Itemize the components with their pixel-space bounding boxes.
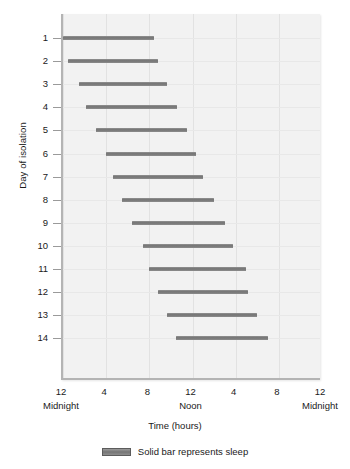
x-tick-label: 12	[171, 386, 211, 397]
x-tick-sublabel: Noon	[151, 400, 231, 411]
x-tick-label: 4	[214, 386, 254, 397]
sleep-bar	[176, 336, 268, 340]
y-tick-label: 12	[20, 287, 48, 297]
x-tick-label: 4	[84, 386, 124, 397]
sleep-bar	[143, 244, 234, 248]
y-tick-label: 1	[20, 33, 48, 43]
plot-area	[61, 14, 320, 380]
x-axis-title: Time (hours)	[0, 420, 350, 431]
y-tick-label: 11	[20, 264, 48, 274]
sleep-bar	[96, 128, 187, 132]
sleep-bar	[79, 82, 166, 86]
sleep-bar	[106, 152, 196, 156]
y-tick-label: 8	[20, 195, 48, 205]
y-tick-mark	[53, 61, 61, 62]
y-tick-mark	[53, 84, 61, 85]
y-tick-mark	[53, 292, 61, 293]
x-gridline	[106, 14, 107, 378]
y-tick-label: 9	[20, 218, 48, 228]
y-tick-mark	[53, 269, 61, 270]
sleep-bar	[63, 36, 154, 40]
sleep-bar	[86, 105, 178, 109]
x-tick-label: 12	[300, 386, 340, 397]
x-tick-label: 12	[41, 386, 81, 397]
y-tick-mark	[53, 177, 61, 178]
x-gridline	[236, 14, 237, 378]
y-tick-label: 10	[20, 241, 48, 251]
legend-label: Solid bar represents sleep	[138, 446, 248, 457]
sleep-bar	[167, 313, 258, 317]
y-tick-mark	[53, 315, 61, 316]
x-gridline	[193, 14, 194, 378]
x-gridline	[149, 14, 150, 378]
y-tick-label: 14	[20, 333, 48, 343]
sleep-bar	[158, 290, 248, 294]
chart-legend: Solid bar represents sleep	[0, 446, 350, 457]
x-tick-sublabel: Midnight	[280, 400, 350, 411]
y-tick-label: 13	[20, 310, 48, 320]
legend-swatch-icon	[102, 448, 131, 456]
x-tick-label: 8	[257, 386, 297, 397]
y-tick-mark	[53, 338, 61, 339]
y-tick-mark	[53, 154, 61, 155]
sleep-bar	[149, 267, 246, 271]
x-tick-label: 8	[127, 386, 167, 397]
x-tick-sublabel: Midnight	[21, 400, 101, 411]
sleep-bar	[122, 198, 214, 202]
y-tick-label: 2	[20, 56, 48, 66]
y-tick-mark	[53, 200, 61, 201]
y-tick-label: 7	[20, 172, 48, 182]
y-tick-mark	[53, 38, 61, 39]
y-tick-label: 3	[20, 79, 48, 89]
y-tick-mark	[53, 107, 61, 108]
y-tick-label: 5	[20, 125, 48, 135]
y-tick-label: 6	[20, 149, 48, 159]
y-tick-mark	[53, 246, 61, 247]
x-gridline	[63, 14, 64, 378]
y-tick-label: 4	[20, 102, 48, 112]
sleep-bar	[68, 59, 158, 63]
x-gridline	[279, 14, 280, 378]
y-tick-mark	[53, 223, 61, 224]
sleep-isolation-chart: Day of isolation 1234567891011121314 12M…	[0, 0, 350, 469]
sleep-bar	[113, 175, 204, 179]
y-tick-mark	[53, 130, 61, 131]
sleep-bar	[132, 221, 225, 225]
